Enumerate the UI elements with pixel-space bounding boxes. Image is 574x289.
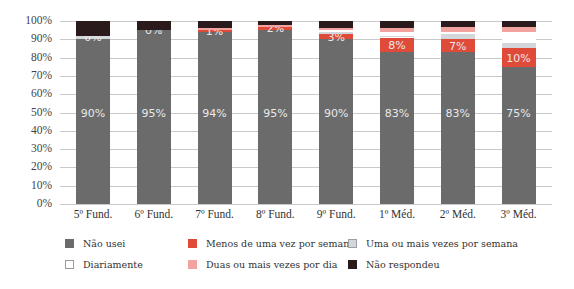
gridline bbox=[60, 94, 552, 95]
bar: 75%10% bbox=[502, 21, 536, 204]
data-label: 95% bbox=[258, 107, 292, 120]
legend-swatch-icon bbox=[188, 239, 197, 248]
bar: 83%8% bbox=[380, 21, 414, 204]
bar-segment bbox=[502, 27, 536, 32]
y-tick-label: 70% bbox=[0, 69, 52, 81]
bar-segment bbox=[441, 32, 475, 34]
bar-segment bbox=[198, 21, 232, 28]
gridline bbox=[60, 131, 552, 132]
data-label: 7% bbox=[441, 40, 475, 53]
gridline bbox=[60, 167, 552, 168]
bar: 95%0% bbox=[137, 21, 171, 204]
y-tick-label: 30% bbox=[0, 142, 52, 154]
legend-item: Não usei bbox=[65, 238, 125, 249]
bar-segment bbox=[380, 36, 414, 38]
bar-segment bbox=[502, 67, 536, 204]
bar-segment bbox=[441, 52, 475, 204]
x-tick-label: 3º Méd. bbox=[484, 208, 554, 220]
bar-segment bbox=[502, 32, 536, 43]
bar-segment bbox=[441, 34, 475, 39]
data-label: 95% bbox=[137, 107, 171, 120]
data-label: 83% bbox=[380, 107, 414, 120]
bar: 94%1% bbox=[198, 21, 232, 204]
x-tick-label: 8º Fund. bbox=[240, 208, 310, 220]
legend-item: Duas ou mais vezes por dia bbox=[188, 259, 337, 270]
y-tick-label: 80% bbox=[0, 51, 52, 63]
y-tick-label: 0% bbox=[0, 197, 52, 209]
x-tick-label: 5º Fund. bbox=[58, 208, 128, 220]
legend-label: Uma ou mais vezes por semana bbox=[366, 238, 518, 249]
gridline bbox=[60, 39, 552, 40]
gridline bbox=[60, 113, 552, 114]
legend-label: Diariamente bbox=[83, 259, 143, 270]
data-label: 94% bbox=[198, 107, 232, 120]
data-label: 83% bbox=[441, 107, 475, 120]
y-tick-label: 50% bbox=[0, 106, 52, 118]
bar-segment bbox=[319, 21, 353, 28]
y-tick-label: 60% bbox=[0, 87, 52, 99]
stacked-bar-chart: 0%10%20%30%40%50%60%70%80%90%100% 90%0%9… bbox=[0, 0, 574, 289]
y-tick-label: 10% bbox=[0, 179, 52, 191]
bar-segment bbox=[380, 28, 414, 32]
gridline bbox=[60, 76, 552, 77]
bar-segment bbox=[319, 32, 353, 34]
y-tick-label: 20% bbox=[0, 160, 52, 172]
legend-label: Não respondeu bbox=[366, 259, 440, 270]
data-label: 8% bbox=[380, 39, 414, 52]
bar-segment bbox=[198, 28, 232, 30]
legend-swatch-icon bbox=[348, 260, 357, 269]
bar-segment bbox=[380, 32, 414, 36]
y-tick-label: 90% bbox=[0, 32, 52, 44]
bar-segment bbox=[380, 52, 414, 204]
bar-segment bbox=[76, 39, 110, 204]
x-tick-label: 1º Méd. bbox=[362, 208, 432, 220]
legend-item: Uma ou mais vezes por semana bbox=[348, 238, 518, 249]
legend-item: Menos de uma vez por semana bbox=[188, 238, 355, 249]
legend-swatch-icon bbox=[348, 239, 357, 248]
bar-segment bbox=[137, 21, 171, 30]
legend-swatch-icon bbox=[188, 260, 197, 269]
y-tick-label: 100% bbox=[0, 14, 52, 26]
bar-segment bbox=[258, 25, 292, 27]
gridline bbox=[60, 149, 552, 150]
bar: 83%7% bbox=[441, 21, 475, 204]
bar-segment bbox=[441, 21, 475, 26]
gridline bbox=[60, 186, 552, 187]
x-tick-label: 6º Fund. bbox=[119, 208, 189, 220]
bar-segment bbox=[441, 27, 475, 32]
bar-segment bbox=[319, 28, 353, 30]
data-label: 90% bbox=[76, 107, 110, 120]
legend-label: Não usei bbox=[83, 238, 125, 249]
bar: 90%0% bbox=[76, 21, 110, 204]
x-tick-label: 2º Méd. bbox=[423, 208, 493, 220]
y-tick-label: 40% bbox=[0, 124, 52, 136]
legend-swatch-icon bbox=[65, 239, 74, 248]
bar-segment bbox=[258, 21, 292, 25]
x-tick-label: 9º Fund. bbox=[301, 208, 371, 220]
bar-segment bbox=[319, 30, 353, 32]
bar: 95%2% bbox=[258, 21, 292, 204]
bar-segment bbox=[319, 39, 353, 204]
bar-segment bbox=[76, 21, 110, 36]
bar-segment bbox=[380, 21, 414, 28]
legend-label: Duas ou mais vezes por dia bbox=[206, 259, 337, 270]
bar: 90%3% bbox=[319, 21, 353, 204]
data-label: 90% bbox=[319, 107, 353, 120]
gridline bbox=[60, 58, 552, 59]
x-tick-label: 7º Fund. bbox=[180, 208, 250, 220]
bar-segment bbox=[502, 21, 536, 26]
legend-item: Não respondeu bbox=[348, 259, 440, 270]
gridline bbox=[60, 204, 552, 205]
data-label: 10% bbox=[502, 52, 536, 65]
legend-label: Menos de uma vez por semana bbox=[206, 238, 355, 249]
gridline bbox=[60, 21, 552, 22]
bar-segment bbox=[502, 43, 536, 48]
legend-item: Diariamente bbox=[65, 259, 143, 270]
legend-swatch-icon bbox=[65, 260, 74, 269]
data-label: 75% bbox=[502, 107, 536, 120]
